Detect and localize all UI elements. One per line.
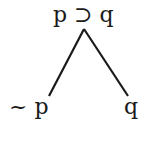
right-branch-edge — [84, 29, 128, 96]
right-branch-formula: q — [124, 96, 138, 118]
tree-edges — [0, 0, 147, 144]
left-branch-edge — [49, 29, 84, 96]
left-branch-formula: ~ p — [9, 96, 49, 118]
